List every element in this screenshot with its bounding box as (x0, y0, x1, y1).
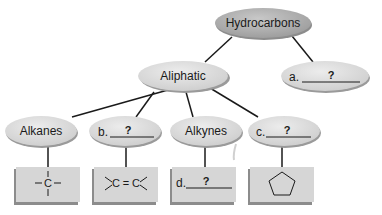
node-hydrocarbons: Hydrocarbons (215, 8, 312, 40)
box-prefix: d. (176, 176, 186, 190)
box-cyclopentane-structure (248, 167, 314, 205)
question-mark: ? (328, 69, 335, 81)
hydrocarbon-tree-diagram: Hydrocarbons Aliphatic a. ? Alkanes b. ?… (0, 0, 382, 215)
edge-aliphatic-c (210, 88, 258, 117)
double-bond-symbol: = (123, 177, 129, 189)
question-mark: ? (284, 124, 291, 136)
box-alkanes-structure: C (14, 167, 80, 205)
node-a-blank: a. ? (281, 61, 370, 93)
node-prefix: a. (289, 70, 299, 84)
edge-aliphatic-alkanes (72, 88, 175, 117)
node-prefix: c. (256, 125, 265, 139)
question-mark: ? (203, 175, 210, 187)
edge-root-aliphatic (205, 37, 232, 62)
carbon-atom-right: C (132, 177, 140, 189)
carbon-atom-left: C (112, 177, 120, 189)
node-prefix: b. (98, 125, 108, 139)
node-label: Hydrocarbons (226, 16, 301, 30)
question-mark: ? (125, 124, 132, 136)
node-c-blank: c. ? (248, 116, 321, 148)
node-label: Aliphatic (160, 69, 205, 83)
node-alkanes: Alkanes (5, 116, 78, 148)
node-label: Alkanes (20, 124, 63, 138)
carbon-atom: C (44, 177, 52, 189)
node-b-blank: b. ? (89, 116, 162, 148)
node-aliphatic: Aliphatic (138, 61, 230, 93)
stray-mark (234, 144, 236, 160)
node-alkynes: Alkynes (170, 116, 243, 148)
edge-root-a (292, 36, 313, 62)
edge-aliphatic-alkynes (186, 92, 193, 117)
connectors (48, 36, 313, 167)
node-label: Alkynes (185, 124, 227, 138)
box-d-blank: d. ? (170, 167, 236, 205)
box-double-bond-structure: C = C (92, 167, 158, 205)
